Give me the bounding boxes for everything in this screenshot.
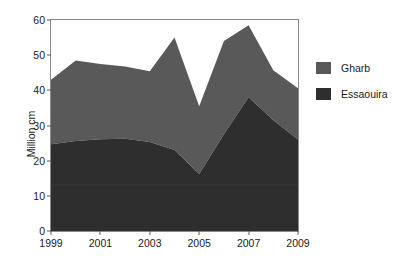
legend-item-gharb[interactable]: Gharb: [316, 62, 388, 74]
legend-swatch-icon: [316, 88, 331, 100]
chart-figure: 0 10 20 30 40 50 60 1999 2001 2003 2005 …: [0, 0, 396, 267]
x-tick-mark: [100, 231, 101, 235]
chart-legend: Gharb Essaouira: [316, 62, 388, 100]
legend-swatch-icon: [316, 62, 331, 74]
x-tick-mark: [298, 231, 299, 235]
plot-area: 0 10 20 30 40 50 60 1999 2001 2003 2005 …: [50, 19, 299, 232]
x-tick-mark: [51, 231, 52, 235]
legend-label: Gharb: [341, 63, 370, 74]
legend-item-essaouira[interactable]: Essaouira: [316, 88, 388, 100]
x-tick-mark: [248, 231, 249, 235]
x-tick-label: 2009: [286, 238, 309, 249]
x-tick-label: 1999: [39, 238, 62, 249]
y-axis-title: Million cm: [25, 110, 37, 157]
y-tick-label: 60: [33, 15, 51, 26]
y-tick-label: 40: [33, 85, 51, 96]
y-tick-label: 10: [33, 191, 51, 202]
x-tick-mark: [199, 231, 200, 235]
y-tick-label: 0: [39, 226, 51, 237]
x-tick-label: 2003: [138, 238, 161, 249]
stacked-area-svg: [51, 20, 298, 231]
x-tick-mark: [149, 231, 150, 235]
x-tick-label: 2005: [188, 238, 211, 249]
x-tick-label: 2001: [89, 238, 112, 249]
y-tick-label: 50: [33, 50, 51, 61]
x-tick-label: 2007: [237, 238, 260, 249]
legend-label: Essaouira: [341, 89, 388, 100]
